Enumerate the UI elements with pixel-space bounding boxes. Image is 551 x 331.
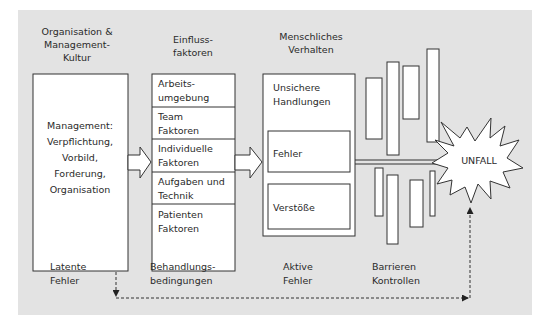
- svg-text:Latente: Latente: [50, 261, 86, 272]
- svg-text:Forderung,: Forderung,: [54, 168, 106, 179]
- svg-text:UNFALL: UNFALL: [461, 155, 497, 166]
- svg-text:Kontrollen: Kontrollen: [372, 275, 420, 286]
- svg-text:Unsichere: Unsichere: [273, 82, 320, 93]
- svg-text:Vorbild,: Vorbild,: [62, 152, 98, 163]
- svg-text:Fehler: Fehler: [273, 148, 302, 159]
- footer-behandlungsbedingungen: Behandlungs- bedingungen: [150, 261, 215, 286]
- svg-text:Management-: Management-: [44, 39, 110, 50]
- svg-text:Handlungen: Handlungen: [273, 96, 331, 107]
- svg-text:Arbeits-: Arbeits-: [158, 78, 195, 89]
- svg-text:Aktive: Aktive: [283, 261, 313, 272]
- block-arrow-2: [235, 147, 262, 178]
- svg-text:Verpflichtung,: Verpflichtung,: [47, 136, 113, 147]
- svg-text:Faktoren: Faktoren: [158, 223, 199, 234]
- svg-text:Faktoren: Faktoren: [158, 125, 199, 136]
- svg-text:Management:: Management:: [47, 120, 113, 131]
- footer-aktive-fehler: Aktive Fehler: [283, 261, 313, 286]
- barriers-lower: [375, 168, 435, 244]
- block-arrow-1: [128, 147, 151, 178]
- footer-latente-fehler: Latente Fehler: [50, 261, 86, 286]
- factor-list: Arbeits- umgebung Team Faktoren Individu…: [152, 74, 235, 271]
- svg-text:Organisation: Organisation: [50, 184, 111, 195]
- svg-text:Organisation &: Organisation &: [41, 26, 113, 37]
- management-box: Management: Verpflichtung, Vorbild, Ford…: [33, 74, 128, 271]
- accident-starburst: UNFALL: [432, 118, 523, 203]
- svg-text:faktoren: faktoren: [173, 47, 213, 58]
- swiss-cheese-diagram: Organisation & Management- Kultur Einflu…: [0, 0, 551, 331]
- svg-text:Team: Team: [157, 111, 183, 122]
- svg-text:umgebung: umgebung: [158, 92, 209, 103]
- svg-text:Verstöße: Verstöße: [273, 202, 315, 213]
- unsafe-acts-box: Unsichere Handlungen Fehler Verstöße: [263, 74, 355, 236]
- heading-organisation: Organisation & Management- Kultur: [41, 26, 113, 63]
- svg-text:Fehler: Fehler: [50, 275, 79, 286]
- heading-menschliches-verhalten: Menschliches Verhalten: [279, 31, 343, 55]
- footer-barrieren-kontrollen: Barrieren Kontrollen: [372, 261, 420, 286]
- svg-text:Barrieren: Barrieren: [372, 261, 416, 272]
- svg-text:Behandlungs-: Behandlungs-: [150, 261, 215, 272]
- svg-text:Aufgaben und: Aufgaben und: [158, 176, 225, 187]
- svg-text:Einfluss-: Einfluss-: [173, 34, 213, 45]
- svg-text:Faktoren: Faktoren: [158, 157, 199, 168]
- svg-text:Menschliches: Menschliches: [279, 31, 343, 42]
- heading-einflussfaktoren: Einfluss- faktoren: [173, 34, 213, 58]
- svg-text:Kultur: Kultur: [63, 52, 91, 63]
- barriers-upper: [366, 49, 439, 155]
- svg-text:Technik: Technik: [157, 190, 194, 201]
- svg-text:Fehler: Fehler: [283, 275, 312, 286]
- svg-text:Verhalten: Verhalten: [288, 44, 333, 55]
- svg-text:bedingungen: bedingungen: [150, 275, 213, 286]
- svg-text:Individuelle: Individuelle: [158, 143, 213, 154]
- svg-text:Patienten: Patienten: [158, 209, 203, 220]
